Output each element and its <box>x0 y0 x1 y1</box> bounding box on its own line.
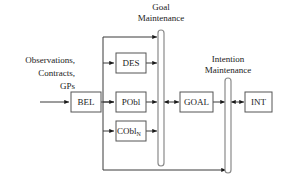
goal-maintenance-bar <box>158 30 164 166</box>
intention-maintenance-bar <box>225 78 231 173</box>
goal-maintenance-label-line-1: Goal <box>152 2 170 12</box>
goal-box-label: GOAL <box>184 97 209 107</box>
pobl-box-label: PObl <box>122 97 141 107</box>
bel-box-label: BEL <box>78 97 95 107</box>
int-box-label: INT <box>251 97 266 107</box>
cobl-box-label-subscript: N <box>137 131 142 137</box>
intention-maintenance-label-line-2: Maintenance <box>205 65 251 75</box>
diagram-canvas: BEL DES PObl COblN GOAL INT Observations… <box>0 0 281 185</box>
des-box-label: DES <box>122 58 139 68</box>
input-label-line-2: Contracts, <box>38 68 75 78</box>
input-label-line-1: Observations, <box>25 55 75 65</box>
intention-maintenance-label-line-1: Intention <box>212 54 245 64</box>
block-diagram-figure: BEL DES PObl COblN GOAL INT Observations… <box>0 0 281 185</box>
input-label-line-3: GPs <box>60 81 76 91</box>
cobl-box-label-main: CObl <box>117 126 137 136</box>
goal-maintenance-label-line-2: Maintenance <box>138 13 184 23</box>
